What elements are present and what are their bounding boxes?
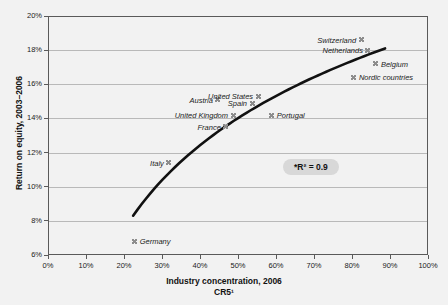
y-axis-tick-mark xyxy=(44,118,48,119)
x-axis-tick-label: 20% xyxy=(109,261,139,270)
y-axis-tick-label: 12% xyxy=(6,148,42,157)
x-axis-tick-label: 80% xyxy=(337,261,367,270)
data-point-label: Switzerland xyxy=(317,35,356,44)
x-axis-tick-mark xyxy=(238,255,239,259)
x-axis-title-line2: CR5¹ xyxy=(0,287,448,298)
gridline xyxy=(49,153,427,154)
data-point-label: Netherlands xyxy=(323,46,363,55)
y-axis-tick-mark xyxy=(44,186,48,187)
r-squared-annotation: *R² = 0.9 xyxy=(283,159,339,175)
x-axis-tick-mark xyxy=(352,255,353,259)
plot-area xyxy=(48,16,428,255)
data-point-label: Belgium xyxy=(381,59,408,68)
data-point-label: France xyxy=(197,122,220,131)
data-point-label: United States xyxy=(208,92,253,101)
y-axis-tick-mark xyxy=(44,152,48,153)
y-axis-tick-mark xyxy=(44,84,48,85)
data-point-marker xyxy=(223,124,228,129)
data-point-marker xyxy=(365,48,370,53)
y-axis-tick-mark xyxy=(44,220,48,221)
y-axis-tick-label: 18% xyxy=(6,45,42,54)
x-axis-tick-label: 30% xyxy=(147,261,177,270)
y-axis-tick-mark xyxy=(44,16,48,17)
y-axis-tick-mark xyxy=(44,50,48,51)
scatter-chart: 6%8%10%12%14%16%18%20% 0%10%20%30%40%50%… xyxy=(0,0,448,305)
x-axis-tick-mark xyxy=(390,255,391,259)
y-axis-tick-label: 16% xyxy=(6,79,42,88)
data-point-label: United Kingdom xyxy=(175,111,228,120)
gridline xyxy=(49,221,427,222)
x-axis-tick-mark xyxy=(86,255,87,259)
gridline xyxy=(49,187,427,188)
data-point-marker xyxy=(256,94,261,99)
x-axis-tick-mark xyxy=(162,255,163,259)
data-point-label: Germany xyxy=(140,237,171,246)
x-axis-title-line1: Industry concentration, 2006 xyxy=(166,276,282,286)
data-point-marker xyxy=(132,239,137,244)
x-axis-tick-label: 40% xyxy=(185,261,215,270)
y-axis-title: Return on equity, 2003–2006 xyxy=(14,18,24,248)
x-axis-tick-mark xyxy=(276,255,277,259)
data-point-label: Nordic countries xyxy=(359,73,413,82)
x-axis-tick-label: 0% xyxy=(33,261,63,270)
y-axis-tick-label: 10% xyxy=(6,182,42,191)
x-axis-tick-label: 10% xyxy=(71,261,101,270)
data-point-marker xyxy=(250,101,255,106)
x-axis-tick-mark xyxy=(314,255,315,259)
data-point-marker xyxy=(231,113,236,118)
data-point-label: Portugal xyxy=(277,111,305,120)
data-point-marker xyxy=(359,37,364,42)
gridline xyxy=(49,118,427,119)
y-axis-tick-label: 6% xyxy=(6,250,42,259)
x-axis-tick-mark xyxy=(200,255,201,259)
data-point-label: Italy xyxy=(150,158,164,167)
x-axis-tick-mark xyxy=(428,255,429,259)
y-axis-tick-label: 14% xyxy=(6,113,42,122)
x-axis-tick-label: 70% xyxy=(299,261,329,270)
x-axis-tick-label: 90% xyxy=(375,261,405,270)
data-point-marker xyxy=(166,160,171,165)
gridline xyxy=(49,84,427,85)
data-point-marker xyxy=(351,75,356,80)
y-axis-tick-label: 20% xyxy=(6,11,42,20)
data-point-marker xyxy=(269,113,274,118)
x-axis-tick-mark xyxy=(48,255,49,259)
x-axis-tick-label: 100% xyxy=(413,261,443,270)
data-point-marker xyxy=(373,61,378,66)
y-axis-tick-label: 8% xyxy=(6,216,42,225)
x-axis-tick-label: 60% xyxy=(261,261,291,270)
x-axis-tick-label: 50% xyxy=(223,261,253,270)
x-axis-title: Industry concentration, 2006 CR5¹ xyxy=(0,276,448,298)
x-axis-tick-mark xyxy=(124,255,125,259)
